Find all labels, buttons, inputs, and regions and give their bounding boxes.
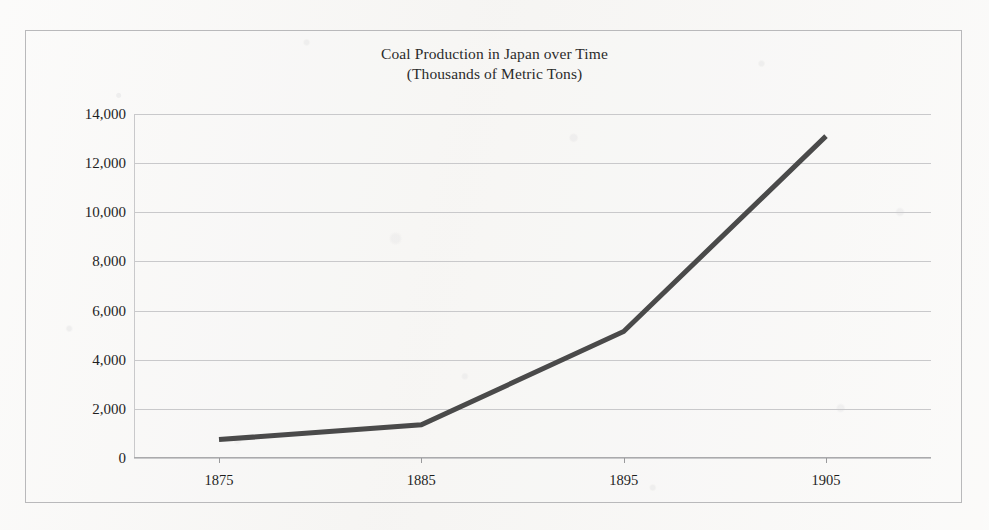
x-axis-tick-label: 1895	[609, 472, 638, 489]
x-axis-tick-labels: 1875188518951905	[134, 458, 931, 498]
y-axis-tick-label: 2,000	[92, 400, 126, 417]
y-axis-tick-label: 12,000	[85, 155, 126, 172]
y-axis-tick-labels: 02,0004,0006,0008,00010,00012,00014,000	[24, 114, 134, 458]
x-axis-tick-label: 1905	[812, 472, 841, 489]
y-axis-tick-label: 0	[119, 450, 127, 467]
x-axis-tick-mark	[421, 458, 422, 463]
chart-title-line2: (Thousands of Metric Tons)	[26, 64, 963, 84]
x-axis-tick-mark	[219, 458, 220, 463]
y-axis-tick-label: 4,000	[92, 351, 126, 368]
chart-frame: Coal Production in Japan over Time (Thou…	[25, 30, 962, 503]
data-series-line	[134, 114, 931, 458]
x-axis-tick-label: 1875	[205, 472, 234, 489]
y-axis-tick-label: 10,000	[85, 204, 126, 221]
chart-title: Coal Production in Japan over Time (Thou…	[26, 44, 963, 84]
x-axis-tick-label: 1885	[407, 472, 436, 489]
plot-area: 02,0004,0006,0008,00010,00012,00014,000 …	[134, 114, 931, 458]
coal-production-polyline	[219, 136, 826, 439]
y-axis-tick-label: 8,000	[92, 253, 126, 270]
x-axis-tick-mark	[826, 458, 827, 463]
y-axis-tick-label: 6,000	[92, 302, 126, 319]
chart-title-line1: Coal Production in Japan over Time	[381, 45, 608, 62]
y-axis-tick-label: 14,000	[85, 106, 126, 123]
x-axis-tick-mark	[624, 458, 625, 463]
